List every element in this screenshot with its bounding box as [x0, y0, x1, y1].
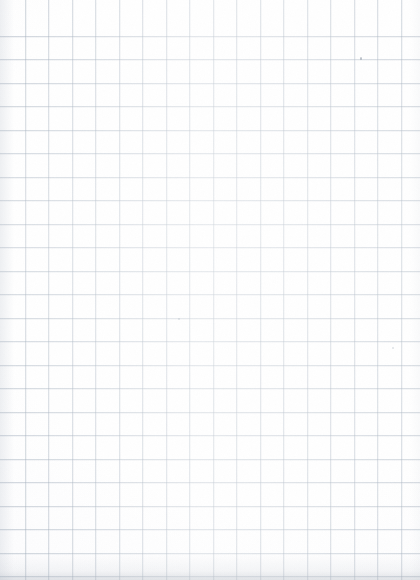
scanned-page — [0, 0, 420, 580]
grid-ghost-rules — [0, 0, 420, 580]
